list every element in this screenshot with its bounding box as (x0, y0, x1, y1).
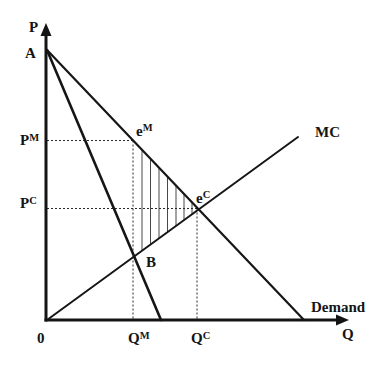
pm-label: PM (20, 132, 39, 148)
point-a-label: A (25, 45, 36, 61)
point-em-sup: M (143, 122, 153, 133)
qm-label: QM (128, 330, 150, 346)
origin-label: 0 (37, 330, 45, 346)
pc-base: P (20, 195, 29, 211)
x-axis-label: Q (342, 326, 354, 342)
pm-base: P (20, 132, 29, 148)
deadweight-loss-hatch (142, 150, 192, 251)
y-axis-label: P (29, 19, 38, 35)
qc-base: Q (191, 330, 203, 346)
mc-curve-label: MC (315, 124, 340, 140)
y-axis-arrow-icon (41, 23, 52, 36)
x-axis-arrow-icon (336, 315, 349, 326)
qc-label: QC (191, 330, 210, 346)
pm-sup: M (29, 132, 39, 143)
point-ec-sup: C (203, 189, 211, 200)
monopoly-deadweight-loss-diagram: P Q 0 A B eM eC PM PC QM QC MC Demand (0, 0, 387, 365)
qc-sup: C (203, 330, 211, 341)
pc-sup: C (29, 195, 37, 206)
point-em-label: eM (136, 122, 153, 139)
qm-sup: M (140, 330, 150, 341)
demand-curve-label: Demand (311, 299, 366, 315)
pc-label: PC (20, 195, 37, 211)
demand-curve (47, 50, 304, 320)
point-b-label: B (146, 254, 156, 270)
qm-base: Q (128, 330, 140, 346)
mc-curve (47, 137, 298, 320)
